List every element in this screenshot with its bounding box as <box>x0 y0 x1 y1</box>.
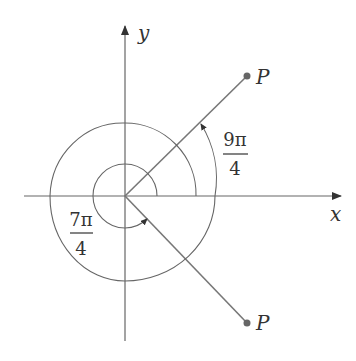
angle-7pi-4-denominator: 4 <box>75 238 86 259</box>
angle-9pi-4-denominator: 4 <box>229 158 240 179</box>
point-p-upper <box>244 73 251 80</box>
y-axis-label: y <box>137 21 150 45</box>
point-p-lower <box>244 320 251 327</box>
angle-9pi-4-numerator: 9π <box>223 129 246 150</box>
point-p-lower-label: P <box>255 311 270 335</box>
x-axis-label: x <box>330 202 341 226</box>
angle-diagram: y x P P 9π 4 7π 4 <box>0 0 356 361</box>
angle-7pi-4-numerator: 7π <box>69 209 92 230</box>
terminal-side-7pi-4 <box>125 196 247 323</box>
point-p-upper-label: P <box>255 65 270 89</box>
